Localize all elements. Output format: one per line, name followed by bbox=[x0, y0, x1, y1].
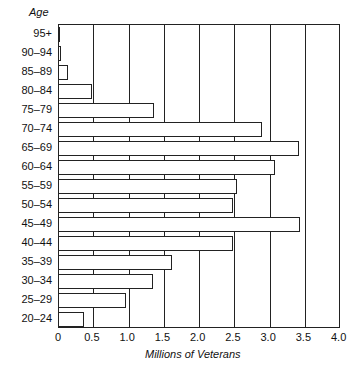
gridline bbox=[234, 24, 235, 328]
y-category-label: 35–39 bbox=[2, 255, 52, 267]
bar bbox=[58, 84, 92, 99]
x-tick-label: 0.5 bbox=[84, 331, 99, 343]
bar bbox=[58, 236, 233, 251]
y-category-label: 75–79 bbox=[2, 103, 52, 115]
gridline bbox=[199, 24, 200, 328]
y-category-label: 20–24 bbox=[2, 312, 52, 324]
x-tick-label: 4.0 bbox=[331, 331, 346, 343]
gridline bbox=[305, 24, 306, 328]
gridline bbox=[164, 24, 165, 328]
y-category-label: 60–64 bbox=[2, 160, 52, 172]
y-category-label: 80–84 bbox=[2, 84, 52, 96]
y-category-label: 85–89 bbox=[2, 65, 52, 77]
y-category-label: 40–44 bbox=[2, 236, 52, 248]
x-tick-label: 1.5 bbox=[155, 331, 170, 343]
bar bbox=[58, 122, 262, 137]
bar bbox=[58, 198, 233, 213]
bar bbox=[58, 179, 237, 194]
x-tick-label: 0 bbox=[55, 331, 61, 343]
bar bbox=[58, 160, 275, 175]
y-category-label: 25–29 bbox=[2, 293, 52, 305]
y-category-label: 95+ bbox=[2, 27, 52, 39]
bar bbox=[58, 65, 68, 80]
bar bbox=[58, 293, 126, 308]
y-category-label: 70–74 bbox=[2, 122, 52, 134]
bar bbox=[58, 274, 153, 289]
y-category-label: 45–49 bbox=[2, 217, 52, 229]
y-category-label: 90–94 bbox=[2, 46, 52, 58]
y-category-label: 30–34 bbox=[2, 274, 52, 286]
x-tick-label: 3.5 bbox=[296, 331, 311, 343]
y-category-label: 65–69 bbox=[2, 141, 52, 153]
y-category-label: 50–54 bbox=[2, 198, 52, 210]
bar bbox=[58, 141, 299, 156]
x-tick-label: 3.0 bbox=[261, 331, 276, 343]
bar bbox=[58, 217, 300, 232]
bar bbox=[58, 46, 61, 61]
x-tick-label: 2.5 bbox=[225, 331, 240, 343]
x-tick-label: 1.0 bbox=[120, 331, 135, 343]
x-tick-label: 2.0 bbox=[190, 331, 205, 343]
x-axis-title: Millions of Veterans bbox=[145, 348, 241, 360]
y-category-label: 55–59 bbox=[2, 179, 52, 191]
veterans-by-age-chart: Age 00.51.01.52.02.53.03.54.095+90–9485–… bbox=[0, 0, 363, 374]
bar bbox=[58, 312, 84, 327]
y-axis-title: Age bbox=[29, 6, 49, 18]
bar bbox=[58, 103, 154, 118]
gridline bbox=[270, 24, 271, 328]
bar bbox=[58, 27, 60, 42]
bar bbox=[58, 255, 172, 270]
